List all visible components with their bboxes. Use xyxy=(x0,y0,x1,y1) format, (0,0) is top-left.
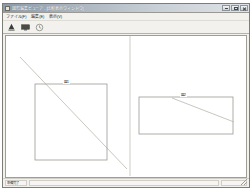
status-text-left: 準備完了 xyxy=(7,181,19,186)
minimize-button[interactable] xyxy=(222,5,230,11)
left-diagonal-line xyxy=(20,57,127,169)
maximize-button[interactable] xyxy=(231,5,239,11)
canvas-vector-layer xyxy=(6,36,247,176)
right-rectangle xyxy=(139,97,233,134)
menu-edit[interactable]: 編集(E) xyxy=(31,14,44,20)
status-pane-middle xyxy=(29,180,219,186)
toolbar-fill[interactable] xyxy=(6,22,17,33)
window-title: 図形編集ビューア - [比較表示ウィンドウ] xyxy=(12,6,220,11)
menu-bar: ファイル(F) 編集(E) 表示(V) xyxy=(3,13,249,21)
left-shape-label: 図1 xyxy=(63,80,70,84)
close-button[interactable] xyxy=(240,5,248,11)
menu-file[interactable]: ファイル(F) xyxy=(6,14,26,20)
status-pane-left: 準備完了 xyxy=(5,180,27,186)
right-diagonal-line xyxy=(172,98,234,122)
desktop-background: 図形編集ビューア - [比較表示ウィンドウ] ファイル(F) 編集(E) 表示(… xyxy=(0,0,252,191)
title-bar[interactable]: 図形編集ビューア - [比較表示ウィンドウ] xyxy=(3,4,249,13)
toolbar-display[interactable] xyxy=(20,22,31,33)
client-area: 図1 図2 xyxy=(3,34,249,178)
resize-grip[interactable] xyxy=(241,179,247,185)
app-window-icon xyxy=(5,6,10,11)
refresh-clock-icon xyxy=(35,23,44,32)
drawing-canvas[interactable]: 図1 図2 xyxy=(5,35,247,178)
fill-bucket-icon xyxy=(7,23,16,32)
left-rectangle xyxy=(35,84,107,160)
monitor-icon xyxy=(21,23,30,32)
right-shape-label: 図2 xyxy=(180,93,187,97)
window-controls xyxy=(222,5,248,11)
menu-view[interactable]: 表示(V) xyxy=(49,14,62,20)
toolbar-refresh[interactable] xyxy=(34,22,45,33)
application-window: 図形編集ビューア - [比較表示ウィンドウ] ファイル(F) 編集(E) 表示(… xyxy=(2,3,250,188)
tool-bar xyxy=(3,21,249,34)
status-bar: 準備完了 xyxy=(3,178,249,187)
